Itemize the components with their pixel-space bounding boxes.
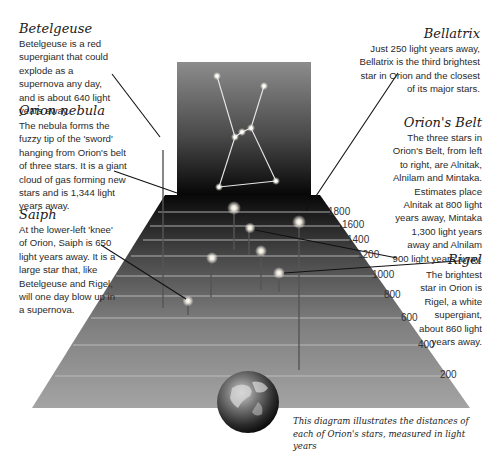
star-alnilam [245, 223, 256, 234]
star-mintaka [227, 201, 241, 215]
betelgeuse-title: Betelgeuse [19, 21, 119, 36]
bellatrix-annotation: Bellatrix Just 250 light years away, Bel… [350, 26, 480, 96]
tick-1200: 1200 [357, 249, 379, 260]
rigel-annotation: Rigel The brightest star in Orion is Rig… [410, 252, 482, 348]
saiph-annotation: Saiph At the lower-left 'knee' of Orion,… [19, 207, 118, 317]
bellatrix-text: Just 250 light years away, Bellatrix is … [350, 42, 480, 96]
star-saiph [183, 296, 194, 307]
orion-nebula-text: The nebula forms the fuzzy tip of the 's… [19, 119, 134, 213]
tick-1400: 1400 [347, 234, 369, 245]
tick-1000: 1000 [372, 269, 394, 280]
saiph-text: At the lower-left 'knee' of Orion, Saiph… [19, 223, 118, 317]
orion-nebula-title: Orion nebula [19, 103, 134, 118]
orions-belt-text: The three stars in Orion's Belt, from le… [390, 131, 482, 265]
tick-1800: 1800 [328, 206, 350, 217]
star-betelgeuse-far [292, 215, 306, 229]
bellatrix-title: Bellatrix [350, 26, 480, 41]
rigel-title: Rigel [410, 252, 482, 267]
tick-200: 200 [440, 369, 457, 380]
star-alnitak [255, 245, 267, 257]
star-rigel [273, 267, 285, 279]
tick-1600: 1600 [342, 219, 364, 230]
orions-belt-title: Orion's Belt [390, 115, 482, 130]
tick-800: 800 [384, 289, 401, 300]
earth-icon [217, 371, 279, 433]
orion-nebula-annotation: Orion nebula The nebula forms the fuzzy … [19, 103, 134, 213]
star-orion-nebula [206, 252, 218, 264]
orions-belt-annotation: Orion's Belt The three stars in Orion's … [390, 115, 482, 265]
rigel-text: The brightest star in Orion is Rigel, a … [410, 268, 482, 348]
diagram-caption: This diagram illustrates the distances o… [293, 415, 483, 453]
saiph-title: Saiph [19, 207, 118, 222]
